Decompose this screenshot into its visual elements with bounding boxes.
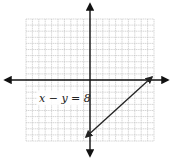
equation-label: x − y = 8 <box>39 92 91 105</box>
coordinate-plane: x − y = 8 <box>0 0 172 160</box>
